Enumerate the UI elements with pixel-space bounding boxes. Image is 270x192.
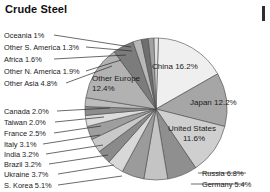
pie-slice-label-inside: Other Europe	[92, 74, 140, 84]
leader-line	[58, 165, 114, 174]
pie-slice-group	[85, 38, 227, 180]
pie-slice-label: Ukraine 3.7%	[4, 170, 48, 179]
pie-slice-label-inside: Japan 12.2%	[190, 98, 237, 108]
pie-slice-label-inside: 12.4%	[92, 84, 115, 94]
leader-line	[49, 155, 108, 164]
cropped-edge-artifact	[262, 6, 265, 21]
pie-slice-label-inside: 11.6%	[183, 134, 205, 144]
chart-root: Crude Steel Oceania 1%Other S. America 1…	[0, 0, 270, 192]
leader-line	[58, 176, 122, 185]
pie-slice-label: Canada 2.0%	[4, 107, 49, 116]
pie-slice-label: Other Asia 4.8%	[4, 79, 57, 88]
pie-slice-label-inside: China 16.2%	[152, 62, 198, 72]
pie-slice-label: Other N. America 1.9%	[4, 67, 80, 76]
pie-slice-label: France 2.5%	[4, 129, 46, 138]
leader-line	[46, 145, 103, 154]
pie-slice-label-inside: United States	[168, 124, 216, 134]
pie-slice-label: Brazil 3.2%	[4, 160, 41, 169]
pie-slice-label: Africa 1.6%	[4, 55, 42, 64]
pie-slice-label: Taiwan 2.0%	[4, 118, 46, 127]
pie-slice-label: Italy 3.1%	[4, 140, 36, 149]
pie-slice-label: Germany 5.4%	[202, 180, 251, 189]
leader-line	[43, 135, 100, 144]
pie-slice-label: Russia 6.8%	[202, 169, 244, 178]
pie-slice-label: S. Korea 5.1%	[4, 181, 52, 190]
pie-slice-label: Other S. America 1.3%	[4, 43, 79, 52]
pie-slice-label: Oceania 1%	[4, 31, 44, 40]
pie-slice-label: India 3.2%	[4, 150, 39, 159]
